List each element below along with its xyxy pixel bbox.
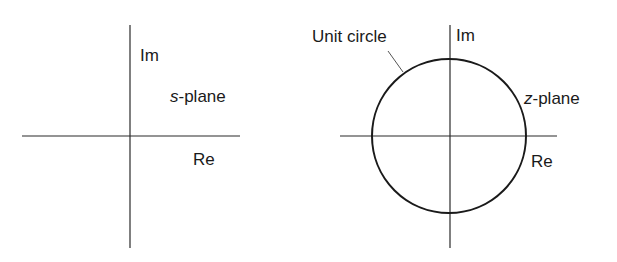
- s-plane-z-plane-diagram: Im s-plane Re Unit circle Im z-plane Re: [0, 0, 617, 262]
- unit-circle-leader-line: [388, 51, 403, 72]
- z-plane-re-label: Re: [531, 152, 553, 171]
- s-plane: Im s-plane Re: [22, 25, 240, 248]
- s-plane-im-label: Im: [140, 46, 159, 65]
- z-plane-title: z-plane: [523, 89, 580, 108]
- z-plane: Unit circle Im z-plane Re: [312, 25, 580, 248]
- unit-circle-label: Unit circle: [312, 27, 387, 46]
- s-plane-title: s-plane: [170, 87, 226, 106]
- z-plane-im-label: Im: [456, 26, 475, 45]
- s-plane-re-label: Re: [193, 150, 215, 169]
